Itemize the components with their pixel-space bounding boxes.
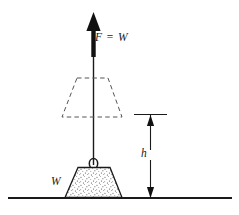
force-label: F = W [95, 32, 128, 44]
height-label: h [141, 148, 147, 160]
dimension-arrowhead-bottom [147, 187, 154, 198]
weight-block [65, 168, 122, 198]
physics-figure: F = W W h [0, 0, 239, 215]
weight-label: W [51, 176, 61, 188]
dimension-arrowhead-top [147, 115, 154, 126]
ghost-block-dashed-trapezoid [62, 78, 122, 117]
height-dimension-line [134, 115, 167, 199]
